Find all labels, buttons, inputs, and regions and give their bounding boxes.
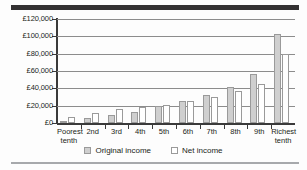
x-axis-category-label: Richesttenth <box>271 127 295 145</box>
y-axis-tick-label: £40,000 <box>1 84 53 92</box>
legend-swatch-net <box>171 147 178 154</box>
legend-label: Net income <box>182 146 222 155</box>
bar-original-income <box>155 106 162 123</box>
bar-net-income <box>163 105 170 123</box>
x-axis-separator <box>81 124 82 129</box>
bar-group <box>224 19 248 123</box>
bar-net-income <box>235 91 242 123</box>
bar-original-income <box>84 118 91 123</box>
x-axis-separator <box>271 124 272 129</box>
bar-original-income <box>179 101 186 123</box>
bar-net-income <box>68 117 75 123</box>
x-axis-category-label: 6th <box>176 127 200 136</box>
x-axis-separator <box>105 124 106 129</box>
bar-net-income <box>92 113 99 123</box>
x-axis-separator <box>224 124 225 129</box>
bar-original-income <box>274 34 281 123</box>
x-axis-category-label: 7th <box>200 127 224 136</box>
top-divider-rule <box>11 5 299 10</box>
bar-group <box>81 19 105 123</box>
bar-group <box>57 19 81 123</box>
income-decile-bar-chart: £0£20,000£40,000£60,000£80,000£100,000£1… <box>0 0 307 170</box>
bar-original-income <box>131 112 138 123</box>
y-axis-tick-label: £80,000 <box>1 50 53 58</box>
plot-area <box>57 19 295 123</box>
bar-original-income <box>60 121 67 123</box>
x-axis-category-label: 8th <box>224 127 248 136</box>
y-axis-tick-label: £20,000 <box>1 102 53 110</box>
bar-original-income <box>250 74 257 123</box>
legend-label: Original income <box>95 146 151 155</box>
bar-net-income <box>258 84 265 123</box>
y-axis-tick-labels: £0£20,000£40,000£60,000£80,000£100,000£1… <box>0 0 53 170</box>
bar-group <box>128 19 152 123</box>
x-axis-category-label: 5th <box>152 127 176 136</box>
bar-group <box>247 19 271 123</box>
bar-original-income <box>108 115 115 123</box>
x-axis-separator <box>247 124 248 129</box>
y-axis-tick-label: £0 <box>1 119 53 127</box>
bar-group <box>176 19 200 123</box>
y-axis-tick-label: £100,000 <box>1 32 53 40</box>
bar-group <box>200 19 224 123</box>
bar-original-income <box>203 95 210 123</box>
bar-net-income <box>187 101 194 123</box>
x-axis-separator <box>152 124 153 129</box>
y-axis-tick-label: £60,000 <box>1 67 53 75</box>
bar-group <box>105 19 129 123</box>
chart-legend: Original incomeNet income <box>0 146 307 155</box>
x-axis-category-label: 4th <box>128 127 152 136</box>
legend-item: Net income <box>171 146 222 155</box>
bar-net-income <box>139 107 146 123</box>
legend-swatch-original <box>84 147 91 154</box>
x-axis-separator <box>128 124 129 129</box>
y-axis-tick-label: £120,000 <box>1 15 53 23</box>
bar-original-income <box>227 87 234 123</box>
bar-net-income <box>116 109 123 123</box>
x-axis-category-label: 2nd <box>81 127 105 136</box>
bar-group <box>271 19 295 123</box>
bottom-divider-rule <box>11 162 299 164</box>
x-axis-category-label: Pooresttenth <box>57 127 81 145</box>
x-axis-separator <box>200 124 201 129</box>
x-axis-category-label: 9th <box>247 127 271 136</box>
bar-net-income <box>282 54 289 123</box>
x-axis-separator <box>176 124 177 129</box>
legend-item: Original income <box>84 146 151 155</box>
bar-group <box>152 19 176 123</box>
bar-net-income <box>211 97 218 123</box>
x-axis-category-label: 3rd <box>105 127 129 136</box>
